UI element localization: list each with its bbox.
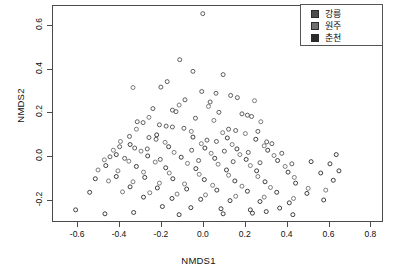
x-tick-label: 0.0 xyxy=(183,229,223,239)
data-point xyxy=(253,99,257,103)
data-point xyxy=(259,120,263,124)
data-point xyxy=(191,135,195,139)
data-point xyxy=(255,169,259,173)
legend-swatch-icon xyxy=(311,34,319,42)
data-point xyxy=(262,195,266,199)
data-point xyxy=(199,197,203,201)
data-point xyxy=(334,153,338,157)
data-point xyxy=(189,206,193,210)
data-point xyxy=(258,200,262,204)
data-point xyxy=(225,136,229,140)
x-tick-mark xyxy=(119,222,120,227)
x-axis-label: NMDS1 xyxy=(0,255,397,266)
data-point xyxy=(256,129,260,133)
data-point xyxy=(234,129,238,133)
data-point xyxy=(214,91,218,95)
data-point xyxy=(212,118,216,122)
data-point xyxy=(248,164,252,168)
data-point xyxy=(209,151,213,155)
data-point xyxy=(244,157,248,161)
data-point xyxy=(331,178,335,182)
data-point xyxy=(147,136,151,140)
data-point xyxy=(286,170,290,174)
data-point xyxy=(132,210,136,214)
data-point xyxy=(276,159,280,163)
data-point xyxy=(170,125,174,129)
y-tick-label: 0.6 xyxy=(34,9,44,39)
data-point xyxy=(199,142,203,146)
data-point xyxy=(231,160,235,164)
data-point xyxy=(245,189,249,193)
data-point xyxy=(272,153,276,157)
data-point xyxy=(238,153,242,157)
data-point xyxy=(114,153,118,157)
data-point xyxy=(224,168,228,172)
data-point xyxy=(322,198,326,202)
data-point xyxy=(305,191,309,195)
x-tick-mark xyxy=(370,222,371,227)
data-point xyxy=(217,110,221,114)
y-tick-label: 0.0 xyxy=(34,140,44,170)
data-point xyxy=(131,86,135,90)
data-point xyxy=(177,103,181,107)
data-point xyxy=(141,121,145,125)
data-point xyxy=(174,110,178,114)
x-tick-mark xyxy=(329,222,330,227)
data-point xyxy=(264,210,268,214)
legend-item-label: 춘천 xyxy=(325,33,341,43)
data-point xyxy=(275,190,279,194)
data-point xyxy=(250,211,254,215)
legend-item[interactable]: 강릉 xyxy=(301,8,382,20)
data-point xyxy=(121,190,125,194)
data-point xyxy=(151,107,155,111)
data-point xyxy=(193,116,197,120)
data-point xyxy=(191,69,195,73)
data-point xyxy=(258,161,262,165)
data-point xyxy=(177,213,181,217)
x-tick-label: 0.4 xyxy=(267,229,307,239)
data-point xyxy=(290,162,294,166)
data-point xyxy=(201,12,205,16)
data-point xyxy=(235,96,239,100)
data-point xyxy=(157,123,161,127)
data-point xyxy=(319,171,323,175)
x-tick-mark xyxy=(245,222,246,227)
data-point xyxy=(227,173,231,177)
data-point xyxy=(250,114,254,118)
data-point xyxy=(280,151,284,155)
data-point xyxy=(263,180,267,184)
data-point xyxy=(230,143,234,147)
data-point xyxy=(179,155,183,159)
data-point xyxy=(206,104,210,108)
data-point xyxy=(88,190,92,194)
data-point xyxy=(163,140,167,144)
data-point xyxy=(165,80,169,84)
data-point xyxy=(154,137,158,141)
data-point xyxy=(246,150,250,154)
data-point xyxy=(266,148,270,152)
data-point xyxy=(139,149,143,153)
data-point xyxy=(153,160,157,164)
legend-item[interactable]: 춘천 xyxy=(301,32,382,44)
y-tick-mark xyxy=(47,69,52,70)
data-point xyxy=(292,175,296,179)
data-point xyxy=(148,191,152,195)
y-axis-label: NMDS2 xyxy=(15,66,26,146)
y-tick-mark xyxy=(47,156,52,157)
data-point xyxy=(306,186,310,190)
data-point xyxy=(190,148,194,152)
data-point xyxy=(171,177,175,181)
data-point xyxy=(157,181,161,185)
data-point xyxy=(235,147,239,151)
data-point xyxy=(328,162,332,166)
data-point xyxy=(108,155,112,159)
y-tick-mark xyxy=(47,112,52,113)
data-point xyxy=(268,185,272,189)
y-tick-mark xyxy=(47,25,52,26)
y-tick-label: 0.4 xyxy=(34,53,44,83)
data-point xyxy=(185,187,189,191)
legend-item[interactable]: 원주 xyxy=(301,20,382,32)
data-point xyxy=(265,140,269,144)
x-tick-mark xyxy=(287,222,288,227)
x-tick-label: 0.6 xyxy=(309,229,349,239)
